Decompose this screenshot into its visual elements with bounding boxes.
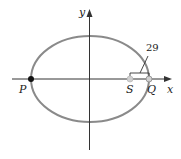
- y-axis-label: y: [79, 7, 85, 18]
- point-s: [127, 76, 133, 82]
- y-axis-arrow-icon: [87, 9, 93, 17]
- distance-label: 29: [146, 43, 159, 53]
- x-axis-label: x: [167, 84, 173, 95]
- x-axis-arrow-icon: [164, 76, 172, 82]
- point-q: [146, 76, 152, 82]
- point-p: [28, 76, 34, 82]
- ellipse-diagram: y x P S Q 29: [0, 0, 181, 159]
- point-p-label: P: [19, 84, 26, 95]
- point-s-label: S: [126, 84, 134, 95]
- diagram-canvas: [0, 0, 181, 159]
- point-q-label: Q: [147, 84, 156, 95]
